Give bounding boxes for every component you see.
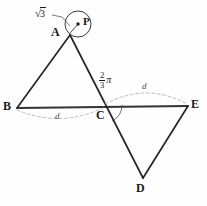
sqrt-expression: √3: [35, 8, 46, 19]
measure-arc-ce: [105, 93, 187, 104]
radius-line: [70, 24, 79, 34]
segment-de: [143, 106, 188, 178]
vertex-label-a: A: [51, 26, 60, 38]
point-label-p: P: [83, 16, 90, 27]
vertex-label-d: D: [136, 182, 145, 194]
vertex-label-b: B: [3, 100, 11, 112]
length-label-bc: d: [55, 112, 60, 121]
radius-measure-label: √3: [35, 8, 46, 20]
sqrt-radicand: 3: [40, 7, 46, 19]
segment-ab: [17, 35, 70, 108]
length-label-ce: d: [142, 82, 147, 91]
figure-canvas: [0, 0, 207, 206]
vertex-label-e: E: [191, 98, 199, 110]
pi-symbol: π: [105, 75, 111, 85]
vertex-label-c: C: [96, 109, 105, 121]
geometry-figure: A B C D E P √3 23π d d: [0, 0, 207, 206]
measure-arc-bc: [17, 108, 103, 119]
angle-measure-label: 23π: [99, 71, 111, 90]
